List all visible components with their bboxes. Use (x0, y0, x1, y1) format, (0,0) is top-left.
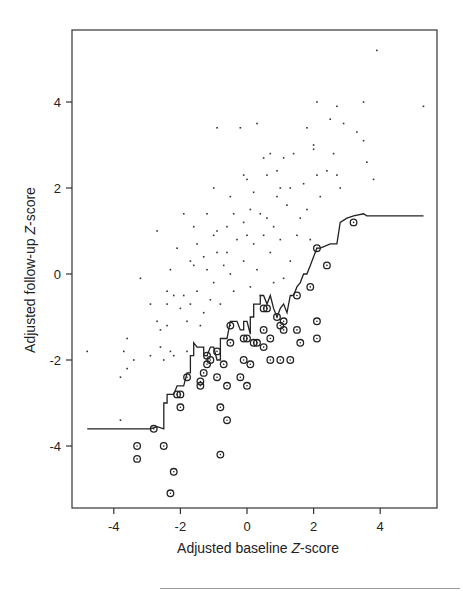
data-point (313, 149, 315, 151)
data-point (263, 235, 265, 237)
circled-data-point (264, 305, 271, 312)
circled-data-point (324, 262, 331, 269)
circled-points (134, 219, 357, 497)
circled-data-point (267, 357, 274, 364)
data-point (150, 303, 152, 305)
data-point (210, 299, 212, 301)
data-point (223, 265, 225, 267)
data-point (270, 252, 272, 254)
circled-data-point (247, 361, 254, 368)
data-point (123, 351, 125, 353)
data-point (289, 260, 291, 262)
data-point (150, 355, 152, 357)
data-point (306, 209, 308, 211)
scatter-points (86, 50, 424, 421)
data-point (200, 325, 202, 327)
data-point (230, 196, 232, 198)
data-point (266, 217, 268, 219)
data-point (423, 106, 425, 108)
data-point (329, 118, 331, 120)
data-point (170, 269, 172, 271)
data-point (333, 153, 335, 155)
data-point (216, 252, 218, 254)
circled-data-point (307, 284, 314, 291)
data-point (183, 213, 185, 215)
data-point (120, 376, 122, 378)
data-point (193, 226, 195, 228)
data-point (313, 144, 315, 146)
circled-data-point (274, 314, 281, 321)
data-point (190, 303, 192, 305)
data-point (253, 192, 255, 194)
circled-data-point (160, 443, 167, 450)
data-point (276, 170, 278, 172)
plot-frame (72, 30, 437, 508)
x-tick-label: 2 (310, 519, 317, 534)
data-point (233, 290, 235, 292)
circled-data-point (314, 318, 321, 325)
circled-data-point (297, 340, 304, 347)
data-point (336, 174, 338, 176)
data-point (183, 295, 185, 297)
data-point (316, 101, 318, 103)
data-point (336, 106, 338, 108)
data-point (309, 239, 311, 241)
y-tick-label: -4 (49, 439, 61, 454)
data-point (296, 235, 298, 237)
data-point (339, 187, 341, 189)
data-point (273, 226, 275, 228)
x-axis-label: Adjusted baseline Z-score (177, 540, 339, 556)
data-point (170, 351, 172, 353)
data-point (276, 196, 278, 198)
x-tick-label: -2 (175, 519, 187, 534)
circled-data-point (260, 327, 267, 334)
y-tick-label: 4 (54, 95, 61, 110)
circled-data-point (167, 490, 174, 497)
x-tick-label: 4 (377, 519, 384, 534)
circled-data-point (240, 357, 247, 364)
data-point (376, 50, 378, 52)
data-point (250, 286, 252, 288)
data-point (363, 101, 365, 103)
circled-data-point (254, 340, 261, 347)
y-tick-label: 2 (54, 181, 61, 196)
data-point (326, 170, 328, 172)
data-point (260, 295, 262, 297)
data-point (160, 329, 162, 331)
circled-data-point (177, 391, 184, 398)
data-point (213, 282, 215, 284)
circled-data-point (224, 383, 231, 390)
data-point (226, 252, 228, 254)
circled-data-point (237, 374, 244, 381)
data-point (299, 217, 301, 219)
circled-data-point (287, 357, 294, 364)
data-point (156, 321, 158, 323)
y-axis-ticks: -4-2024 (49, 95, 72, 454)
data-point (193, 265, 195, 267)
x-tick-label: 0 (243, 519, 250, 534)
data-point (243, 174, 245, 176)
data-point (86, 351, 88, 353)
data-point (343, 123, 345, 125)
data-point (266, 174, 268, 176)
threshold-step-line (87, 214, 423, 429)
data-point (283, 278, 285, 280)
data-point (173, 355, 175, 357)
data-point (233, 213, 235, 215)
data-point (256, 123, 258, 125)
data-point (203, 256, 205, 258)
data-point (363, 140, 365, 142)
circled-data-point (314, 335, 321, 342)
data-point (180, 308, 182, 310)
data-point (206, 213, 208, 215)
scatter-chart: -4-2024 -4-2024 Adjusted baseline Z-scor… (0, 0, 463, 591)
data-point (293, 153, 295, 155)
circled-data-point (294, 292, 301, 299)
circled-data-point (214, 374, 221, 381)
data-point (283, 157, 285, 159)
circled-data-point (244, 383, 251, 390)
data-point (316, 174, 318, 176)
data-point (196, 243, 198, 245)
data-point (126, 368, 128, 370)
y-tick-label: 0 (54, 267, 61, 282)
